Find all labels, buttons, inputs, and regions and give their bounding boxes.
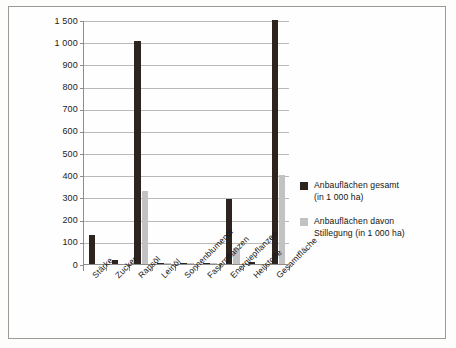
gridline: [84, 176, 289, 177]
y-axis-tick-label: 800: [62, 83, 78, 92]
bar-gesamt: [134, 41, 141, 264]
gridline: [84, 21, 289, 22]
legend-swatch-series-1: [300, 218, 308, 226]
y-tick-mark: [80, 198, 84, 199]
y-tick-mark: [80, 243, 84, 244]
y-axis-tick-label: 600: [62, 127, 78, 136]
gridline: [84, 88, 289, 89]
gridline: [84, 43, 289, 44]
y-axis-tick-label: 100: [62, 238, 78, 247]
y-axis-labels: 01002003004005006007008009001 0001 500: [38, 21, 78, 265]
legend-swatch-series-0: [300, 182, 308, 190]
gridline: [84, 221, 289, 222]
legend-label-line2: Stillegung (in 1 000 ha): [314, 228, 405, 240]
y-tick-mark: [80, 176, 84, 177]
y-axis-tick-label: 500: [62, 150, 78, 159]
bar-gesamt: [89, 235, 96, 264]
legend-label-line1: Anbauflächen gesamt: [314, 180, 399, 190]
y-tick-mark: [80, 43, 84, 44]
y-tick-mark: [80, 132, 84, 133]
legend-label-line2: (in 1 000 ha): [314, 192, 399, 204]
legend-label-series-1: Anbauflächen davon Stillegung (in 1 000 …: [314, 216, 405, 239]
gridline: [84, 65, 289, 66]
y-tick-mark: [80, 88, 84, 89]
legend-item: Anbauflächen davon Stillegung (in 1 000 …: [300, 216, 448, 239]
y-axis-tick-label: 1 500: [54, 17, 78, 26]
gridline: [84, 198, 289, 199]
y-tick-mark: [80, 21, 84, 22]
legend-label-series-0: Anbauflächen gesamt (in 1 000 ha): [314, 180, 399, 203]
y-tick-mark: [80, 221, 84, 222]
chart-legend: Anbauflächen gesamt (in 1 000 ha) Anbauf…: [300, 180, 448, 252]
chart-page: 01002003004005006007008009001 0001 500 S…: [0, 0, 456, 348]
gridline: [84, 132, 289, 133]
bar-chart: 01002003004005006007008009001 0001 500 S…: [0, 0, 456, 348]
y-axis-tick-label: 1 000: [54, 39, 78, 48]
legend-item: Anbauflächen gesamt (in 1 000 ha): [300, 180, 448, 203]
x-axis-labels: StärkeZuckerRapsölLeinölSonnenblumenölFa…: [0, 265, 320, 345]
bar-gesamt: [272, 20, 279, 264]
y-tick-mark: [80, 110, 84, 111]
y-axis-tick-label: 300: [62, 194, 78, 203]
y-axis-tick-label: 700: [62, 105, 78, 114]
y-axis-tick-label: 400: [62, 172, 78, 181]
plot-area: [83, 21, 289, 265]
legend-label-line1: Anbauflächen davon: [314, 216, 394, 226]
bar-stillegung: [142, 191, 149, 264]
y-tick-mark: [80, 154, 84, 155]
y-axis-tick-label: 900: [62, 61, 78, 70]
gridline: [84, 110, 289, 111]
y-tick-mark: [80, 65, 84, 66]
y-axis-tick-label: 200: [62, 216, 78, 225]
gridline: [84, 154, 289, 155]
